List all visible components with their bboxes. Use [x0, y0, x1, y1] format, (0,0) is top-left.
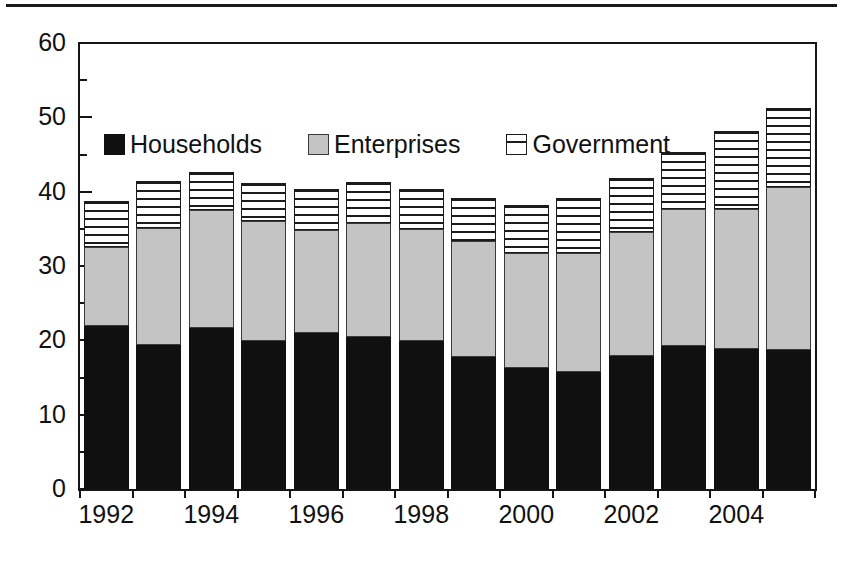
bar-1992 [84, 201, 129, 489]
legend-label-enterprises: Enterprises [334, 132, 460, 157]
figure-canvas: 0102030405060 19921994199619982000200220… [0, 0, 843, 562]
bar-segment-enterprises [451, 241, 496, 357]
bar-segment-enterprises [84, 247, 129, 327]
x-tick-label: 2004 [708, 500, 764, 528]
x-tick-label: 1998 [393, 500, 449, 528]
bar-1994 [189, 172, 234, 489]
bar-segment-households [346, 337, 391, 489]
y-tick-label: 20 [38, 327, 66, 352]
bar-1996 [294, 189, 339, 489]
bar-segment-enterprises [766, 187, 811, 350]
horizontal-stripe-square-icon [506, 134, 527, 155]
bar-segment-households [84, 326, 129, 489]
bar-segment-government [241, 183, 286, 222]
bar-1997 [346, 182, 391, 489]
bar-segment-households [399, 341, 444, 489]
x-tick-mark [394, 489, 396, 498]
bar-segment-households [504, 368, 549, 489]
bar-segment-enterprises [346, 223, 391, 337]
bar-segment-enterprises [399, 229, 444, 341]
bar-segment-enterprises [714, 209, 759, 349]
bar-2001 [556, 198, 601, 489]
bar-1999 [451, 198, 496, 489]
bar-segment-enterprises [294, 230, 339, 333]
bar-segment-households [451, 357, 496, 489]
y-axis-labels: 0102030405060 [0, 0, 66, 562]
header-rule [6, 4, 837, 7]
y-tick-label: 0 [52, 476, 66, 501]
bar-segment-government [399, 189, 444, 229]
legend-label-households: Households [130, 132, 262, 157]
bar-segment-enterprises [556, 253, 601, 372]
bar-segment-government [294, 189, 339, 229]
bar-2005 [766, 108, 811, 489]
bar-segment-households [136, 345, 181, 489]
bars-container [80, 44, 815, 489]
bar-segment-enterprises [504, 253, 549, 367]
x-tick-label: 2000 [498, 500, 554, 528]
solid-black-square-icon [104, 134, 125, 155]
bar-segment-government [346, 182, 391, 223]
y-tick-label: 10 [38, 402, 66, 427]
chart-legend: Households Enterprises Government [104, 128, 670, 160]
bar-2003 [661, 152, 706, 489]
bar-segment-government [661, 152, 706, 208]
bar-1998 [399, 189, 444, 489]
x-tick-mark [604, 489, 606, 498]
bar-segment-enterprises [241, 221, 286, 341]
bar-1993 [136, 181, 181, 489]
x-tick-mark [184, 489, 186, 498]
bar-segment-households [556, 372, 601, 489]
bar-segment-enterprises [189, 210, 234, 328]
x-tick-mark [289, 489, 291, 498]
bar-segment-government [609, 178, 654, 232]
bar-2000 [504, 205, 549, 489]
x-tick-mark [814, 489, 816, 498]
legend-label-government: Government [532, 132, 670, 157]
x-tick-mark [447, 489, 449, 498]
bar-segment-households [609, 356, 654, 489]
bar-segment-government [189, 172, 234, 210]
x-tick-label: 1996 [288, 500, 344, 528]
bar-segment-government [84, 201, 129, 246]
bar-segment-government [136, 181, 181, 228]
bar-segment-households [766, 350, 811, 489]
bar-segment-households [714, 349, 759, 489]
bar-2002 [609, 178, 654, 489]
legend-entry-government: Government [506, 132, 670, 157]
x-tick-mark [552, 489, 554, 498]
legend-entry-enterprises: Enterprises [308, 132, 460, 157]
y-tick-label: 60 [38, 30, 66, 55]
bar-segment-government [504, 205, 549, 253]
x-tick-label: 1992 [78, 500, 134, 528]
x-tick-label: 2002 [603, 500, 659, 528]
x-tick-mark [709, 489, 711, 498]
bar-segment-enterprises [609, 232, 654, 356]
x-tick-label: 1994 [183, 500, 239, 528]
bar-segment-government [556, 198, 601, 254]
x-tick-mark [762, 489, 764, 498]
x-tick-mark [79, 489, 81, 498]
x-tick-mark [342, 489, 344, 498]
bar-segment-households [189, 328, 234, 489]
bar-segment-government [766, 108, 811, 188]
x-tick-mark [132, 489, 134, 498]
bar-2004 [714, 131, 759, 489]
bar-segment-enterprises [136, 228, 181, 345]
bar-segment-households [294, 333, 339, 489]
bar-segment-government [714, 131, 759, 208]
y-tick-label: 40 [38, 179, 66, 204]
legend-entry-households: Households [104, 132, 262, 157]
bar-segment-enterprises [661, 209, 706, 347]
x-tick-mark [237, 489, 239, 498]
bar-segment-households [661, 346, 706, 489]
solid-gray-square-icon [308, 134, 329, 155]
y-tick-label: 30 [38, 253, 66, 278]
bar-segment-households [241, 341, 286, 489]
x-tick-mark [499, 489, 501, 498]
y-tick-label: 50 [38, 104, 66, 129]
bar-segment-government [451, 198, 496, 240]
bar-1995 [241, 183, 286, 489]
x-tick-mark [657, 489, 659, 498]
